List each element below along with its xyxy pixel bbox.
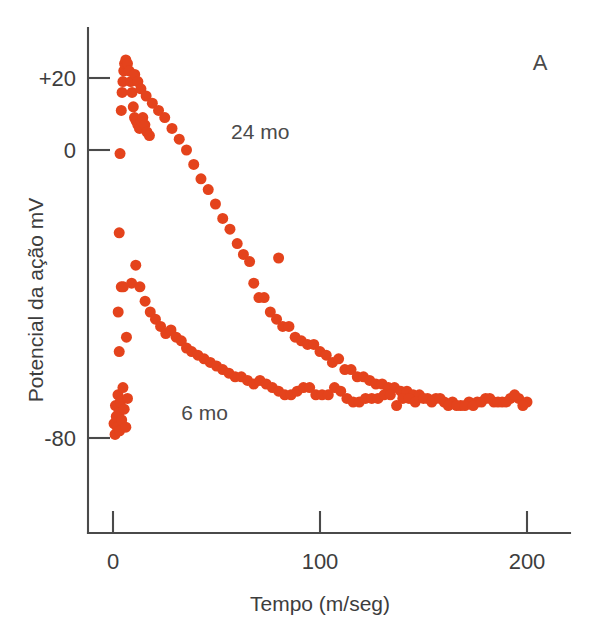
- y-axis-title: Potencial da ação mV: [24, 198, 47, 402]
- data-point: [134, 281, 145, 292]
- y-axis-tick-label: -80: [44, 426, 76, 451]
- data-point: [435, 393, 446, 404]
- x-axis-tick-label: 100: [302, 549, 339, 574]
- data-point: [140, 296, 151, 307]
- data-point: [259, 292, 270, 303]
- data-point: [116, 105, 127, 116]
- data-point: [248, 278, 259, 289]
- series-24-mo: [109, 55, 533, 440]
- data-point: [188, 159, 199, 170]
- data-point: [217, 213, 228, 224]
- data-point: [167, 123, 178, 134]
- y-axis-tick-label: 0: [64, 138, 76, 163]
- panel-label: A: [533, 50, 548, 75]
- data-point: [181, 145, 192, 156]
- data-point: [509, 389, 520, 400]
- data-point: [517, 400, 528, 411]
- axes: [88, 28, 570, 533]
- data-point: [195, 173, 206, 184]
- data-point: [114, 227, 125, 238]
- data-point: [273, 253, 284, 264]
- data-point: [113, 307, 124, 318]
- data-point: [501, 397, 512, 408]
- data-point: [232, 238, 243, 249]
- x-axis-tick-label: 0: [107, 549, 119, 574]
- data-point: [244, 256, 255, 267]
- data-point: [114, 346, 125, 357]
- data-point: [385, 389, 396, 400]
- figure-panel-a: +200-800100200Tempo (m/seg)Potencial da …: [0, 0, 610, 621]
- series-label-24-mo: 24 mo: [231, 120, 289, 143]
- data-point: [128, 101, 139, 112]
- data-point: [333, 353, 344, 364]
- data-point: [283, 321, 294, 332]
- data-point: [115, 148, 126, 159]
- data-point: [203, 184, 214, 195]
- data-points-layer: [109, 55, 533, 440]
- series-6-mo: [114, 260, 529, 411]
- data-point: [120, 422, 131, 433]
- data-point: [210, 199, 221, 210]
- data-point: [117, 87, 128, 98]
- data-point: [130, 260, 141, 271]
- y-axis-tick-label: +20: [39, 66, 76, 91]
- x-axis-tick-label: 200: [509, 549, 546, 574]
- data-point: [122, 393, 133, 404]
- data-point: [121, 332, 132, 343]
- data-point: [159, 112, 170, 123]
- x-axis-title: Tempo (m/seg): [250, 592, 390, 615]
- data-point: [224, 224, 235, 235]
- data-point: [144, 130, 155, 141]
- text-labels-layer: +200-800100200Tempo (m/seg)Potencial da …: [24, 50, 548, 615]
- data-point: [117, 382, 128, 393]
- data-point: [119, 404, 130, 415]
- series-label-6-mo: 6 mo: [181, 401, 228, 424]
- scatter-plot: +200-800100200Tempo (m/seg)Potencial da …: [0, 0, 610, 621]
- data-point: [174, 134, 185, 145]
